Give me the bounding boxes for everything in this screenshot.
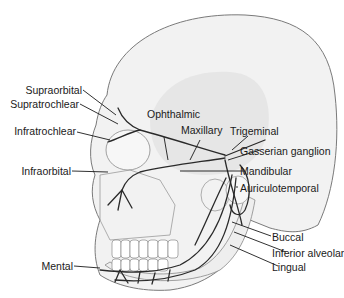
teeth — [112, 240, 178, 271]
label-supratrochlear: Supratrochlear — [0, 98, 79, 110]
label-infraorbital: Infraorbital — [0, 165, 71, 177]
label-trigeminal: Trigeminal — [230, 125, 279, 137]
orbit — [106, 130, 150, 170]
label-ophthalmic: Ophthalmic — [147, 108, 200, 120]
label-mental: Mental — [0, 260, 73, 272]
label-mandibular: Mandibular — [240, 165, 292, 177]
label-lingual: Lingual — [272, 261, 306, 273]
label-maxillary: Maxillary — [181, 124, 222, 136]
label-buccal: Buccal — [272, 231, 304, 243]
label-supraorbital: Supraorbital — [10, 84, 82, 96]
label-inferior-alveolar: Inferior alveolar — [272, 247, 344, 259]
label-infratrochlear: Infratrochlear — [0, 125, 76, 137]
label-auriculotemporal: Auriculotemporal — [240, 182, 319, 194]
label-gasserian-ganglion: Gasserian ganglion — [240, 145, 330, 157]
